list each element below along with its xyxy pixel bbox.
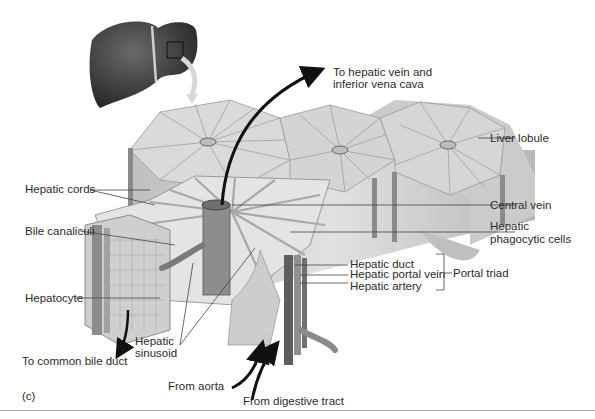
bottom-divider — [0, 410, 595, 411]
label-hepatic-artery: Hepatic artery — [350, 280, 422, 293]
label-from-aorta: From aorta — [168, 380, 224, 393]
label-hepatic-sinusoid-line2: sinusoid — [135, 347, 177, 360]
label-hepatic-phagocytic-cells-line1: Hepatic — [490, 220, 529, 233]
label-to-common-bile-duct: To common bile duct — [22, 355, 127, 368]
label-portal-triad: Portal triad — [453, 267, 509, 280]
label-hepatic-phagocytic-cells-line2: phagocytic cells — [490, 233, 571, 246]
label-liver-lobule: Liver lobule — [490, 132, 549, 145]
panel-label: (c) — [22, 390, 35, 403]
arrow-from-digestive-tract — [252, 345, 276, 400]
cut-lobule-section — [85, 176, 335, 365]
label-central-vein: Central vein — [490, 199, 551, 212]
liver-icon — [90, 22, 198, 108]
label-to-hepatic-vein-line2: inferior vena cava — [333, 78, 424, 91]
label-from-digestive-tract: From digestive tract — [243, 395, 344, 408]
label-bile-canaliculi: Bile canaliculi — [25, 225, 95, 238]
label-hepatic-cords: Hepatic cords — [25, 183, 95, 196]
label-hepatocyte: Hepatocyte — [25, 292, 83, 305]
